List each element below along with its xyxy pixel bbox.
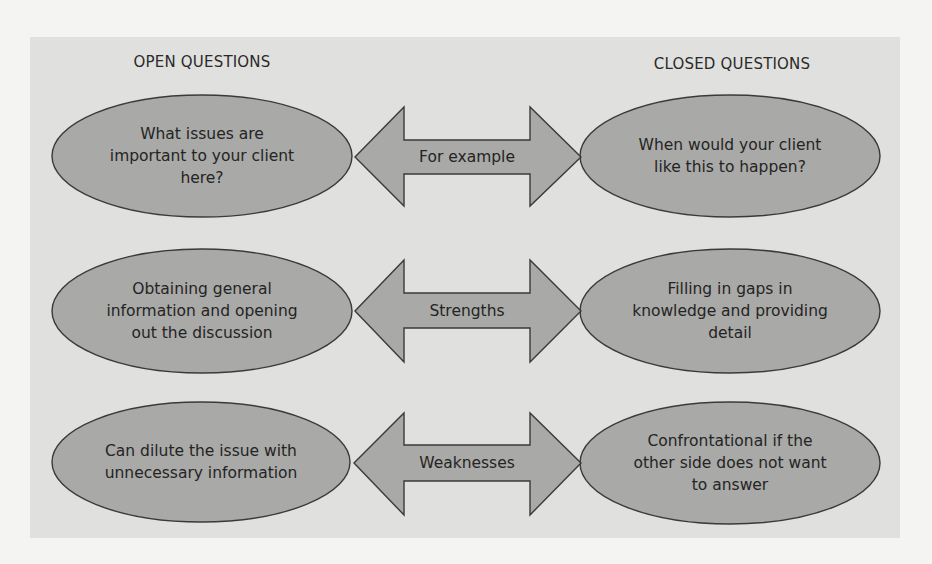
arrow-label-example: For example <box>419 148 515 166</box>
text-line: Can dilute the issue with <box>105 440 298 462</box>
text-line: unnecessary information <box>105 462 298 484</box>
arrow-label-strengths: Strengths <box>429 302 504 320</box>
open-strengths-text: Obtaining general information and openin… <box>106 278 297 344</box>
arrow-label-weaknesses: Weaknesses <box>419 454 515 472</box>
text-line: out the discussion <box>106 322 297 344</box>
text-line: other side does not want <box>633 452 826 474</box>
text-line: like this to happen? <box>639 156 822 178</box>
text-line: detail <box>632 322 828 344</box>
text-line: Obtaining general <box>106 278 297 300</box>
closed-example-text: When would your client like this to happ… <box>639 134 822 178</box>
text-line: What issues are <box>110 123 294 145</box>
text-line: Filling in gaps in <box>632 278 828 300</box>
text-line: here? <box>110 167 294 189</box>
text-line: knowledge and providing <box>632 300 828 322</box>
open-example-text: What issues are important to your client… <box>110 123 294 189</box>
open-weaknesses-text: Can dilute the issue with unnecessary in… <box>105 440 298 484</box>
text-line: important to your client <box>110 145 294 167</box>
text-line: Confrontational if the <box>633 430 826 452</box>
closed-strengths-text: Filling in gaps in knowledge and providi… <box>632 278 828 344</box>
text-line: When would your client <box>639 134 822 156</box>
text-line: information and opening <box>106 300 297 322</box>
open-questions-heading: OPEN QUESTIONS <box>133 53 270 71</box>
closed-weaknesses-text: Confrontational if the other side does n… <box>633 430 826 496</box>
closed-questions-heading: CLOSED QUESTIONS <box>654 55 811 73</box>
text-line: to answer <box>633 474 826 496</box>
